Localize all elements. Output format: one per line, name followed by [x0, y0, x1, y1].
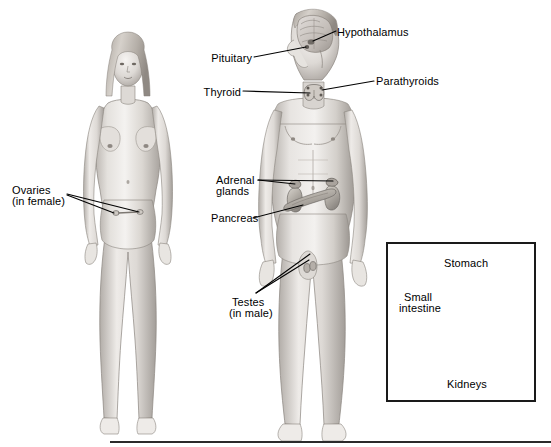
hypothalamus-gland [308, 39, 315, 44]
label-kidneys: Kidneys [447, 379, 487, 391]
bottom-divider-rule [110, 441, 551, 443]
label-stomach: Stomach [444, 258, 488, 270]
label-adrenal-glands-line2: glands [216, 186, 249, 198]
male-body-figure [259, 9, 368, 441]
label-parathyroids: Parathyroids [376, 76, 439, 88]
label-small-intestine-line2: intestine [399, 303, 441, 315]
label-ovaries-line2: (in female) [12, 196, 65, 208]
endocrine-system-figure: Hypothalamus Pituitary Parathyroids Thyr… [0, 0, 551, 447]
label-thyroid: Thyroid [150, 87, 241, 99]
label-pituitary: Pituitary [160, 53, 252, 65]
label-hypothalamus: Hypothalamus [337, 27, 409, 39]
label-testes-line2: (in male) [229, 308, 273, 320]
label-pancreas: Pancreas [211, 213, 258, 225]
